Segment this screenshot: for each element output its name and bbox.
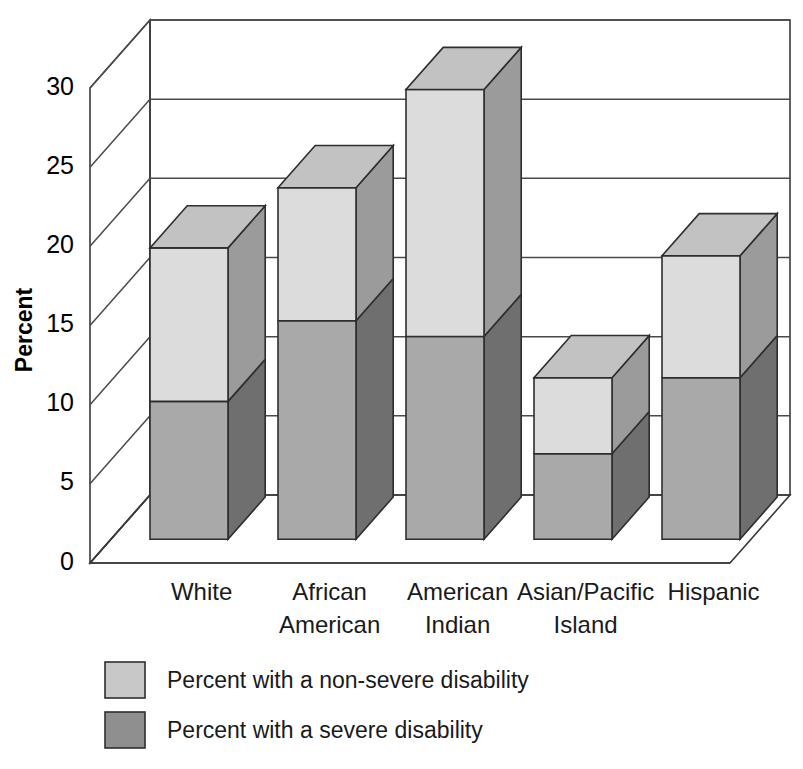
category-label: White: [171, 578, 232, 605]
y-tick-label: 10: [46, 388, 74, 416]
y-tick-label: 15: [46, 309, 74, 337]
bar-front-non-severe: [534, 378, 612, 454]
legend-swatch: [105, 712, 145, 748]
bar-group: [534, 336, 649, 540]
bar-front-severe: [662, 378, 740, 540]
bar-group: [662, 214, 777, 540]
category-label: American: [279, 611, 380, 638]
y-axis-title: Percent: [11, 287, 37, 372]
legend-label: Percent with a non-severe disability: [167, 667, 529, 693]
bar-front-non-severe: [406, 90, 484, 337]
bar-group: [406, 47, 521, 539]
bar-front-non-severe: [150, 248, 228, 402]
y-tick-label: 25: [46, 151, 74, 179]
category-label: African: [292, 578, 367, 605]
stacked-3d-bar-chart: 051015202530 Percent WhiteAfricanAmerica…: [0, 0, 803, 769]
bar-front-severe: [406, 337, 484, 540]
bar-front-non-severe: [662, 256, 740, 378]
category-label: Hispanic: [668, 578, 760, 605]
bar-front-severe: [534, 454, 612, 540]
y-tick-label: 5: [60, 467, 74, 495]
bar-front-severe: [150, 401, 228, 539]
category-label: Asian/Pacific: [517, 578, 654, 605]
bar-side-severe: [356, 279, 393, 540]
category-label: Indian: [425, 611, 490, 638]
category-label: Island: [554, 611, 618, 638]
bar-group: [150, 206, 265, 540]
y-tick-label: 0: [60, 547, 74, 575]
y-tick-label: 20: [46, 230, 74, 258]
bar-group: [278, 146, 393, 540]
legend-label: Percent with a severe disability: [167, 717, 483, 743]
bar-side-non-severe: [484, 47, 521, 336]
bar-front-non-severe: [278, 188, 356, 321]
category-label: American: [407, 578, 508, 605]
bar-front-severe: [278, 321, 356, 540]
legend-swatch: [105, 662, 145, 698]
chart-figure: 051015202530 Percent WhiteAfricanAmerica…: [0, 0, 803, 769]
y-tick-label: 30: [46, 72, 74, 100]
